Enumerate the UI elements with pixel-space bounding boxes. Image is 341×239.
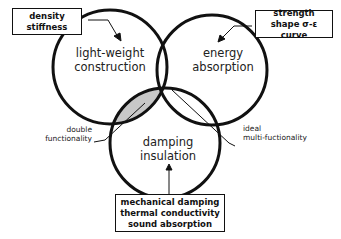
box-line: density <box>13 11 81 22</box>
label-line: insulation <box>128 149 208 163</box>
label-line: damping <box>128 135 208 149</box>
label-line: construction <box>60 60 160 74</box>
label-energy-absorption: energy absorption <box>183 46 263 74</box>
box-strength-shape: strength shape σ-ε curve <box>255 10 333 38</box>
box-damping-properties: mechanical damping thermal conductivity … <box>115 194 225 232</box>
arrow-bottom <box>166 164 172 195</box>
box-line: thermal conductivity <box>116 208 224 219</box>
box-line: strength <box>256 8 332 19</box>
arrow-top-left <box>88 20 121 41</box>
label-line: light-weight <box>60 46 160 60</box>
note-ideal-multifunctionality: ideal multi-fuctionality <box>243 124 333 142</box>
box-line: stiffness <box>13 22 81 33</box>
box-line: shape σ-ε curve <box>256 19 332 41</box>
box-line: sound absorption <box>116 219 224 230</box>
note-line: functionality <box>40 134 92 143</box>
note-double-functionality: double functionality <box>40 125 92 143</box>
label-damping-insulation: damping insulation <box>128 135 208 163</box>
label-line: energy <box>183 46 263 60</box>
label-line: absorption <box>183 60 263 74</box>
label-lightweight-construction: light-weight construction <box>60 46 160 74</box>
box-line: mechanical damping <box>116 197 224 208</box>
box-density-stiffness: density stiffness <box>12 8 82 35</box>
note-line: ideal <box>243 124 333 133</box>
note-line: multi-fuctionality <box>243 133 333 142</box>
note-line: double <box>40 125 92 134</box>
